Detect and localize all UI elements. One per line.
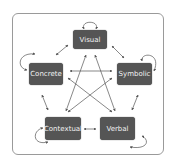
edge-visual-contextual	[66, 55, 86, 111]
node-concrete: Concrete	[29, 63, 63, 85]
edge-visual-concrete	[56, 45, 68, 55]
edge-visual-symbolic	[112, 46, 124, 58]
node-symbolic: Symbolic	[117, 63, 152, 85]
edge-symbolic-verbal	[132, 95, 138, 110]
node-label: Contextual	[44, 125, 82, 133]
node-contextual: Contextual	[45, 117, 81, 140]
node-verbal: Verbal	[100, 117, 135, 140]
node-label: Concrete	[30, 70, 62, 78]
node-label: Verbal	[106, 125, 128, 133]
node-label: Symbolic	[119, 70, 151, 78]
node-label: Visual	[80, 36, 101, 44]
node-visual: Visual	[73, 30, 107, 49]
edge-concrete-contextual	[42, 95, 48, 110]
self-loop-visual	[83, 22, 96, 29]
